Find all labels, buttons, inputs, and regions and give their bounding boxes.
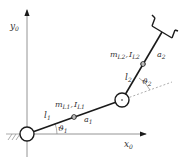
- l1-label: l1: [44, 110, 51, 121]
- base-joint: [20, 127, 34, 141]
- x0-label: x0: [124, 139, 133, 150]
- ground-hatch: [6, 134, 20, 140]
- end-effector-gripper: [152, 15, 178, 38]
- mass-inertia-1-label: mL1,IL1: [55, 100, 85, 110]
- mass-inertia-2-label: mL2,IL2: [110, 50, 140, 60]
- theta1-arc: [55, 124, 57, 135]
- elbow-joint-center: [121, 99, 123, 101]
- theta1-label: ϑ1: [58, 124, 68, 134]
- y0-label: y0: [9, 21, 19, 32]
- a2-label: a2: [157, 50, 166, 60]
- l2-label: l2: [125, 72, 132, 83]
- a1-label: a1: [84, 115, 93, 125]
- manipulator-diagram: y0 x0 l1 ϑ1 mL1,IL1 a1 l2 ϑ2 mL2,IL2 a2: [0, 0, 188, 157]
- theta2-label: ϑ2: [142, 77, 152, 87]
